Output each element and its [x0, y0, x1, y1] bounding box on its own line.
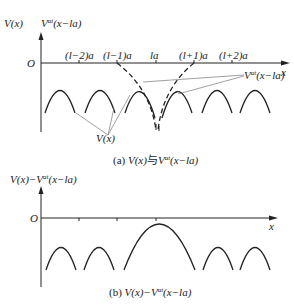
origin-label-b: O: [30, 212, 38, 224]
tick-label-l-2: (l−2)a: [65, 49, 94, 62]
annot-v: V(x): [96, 132, 115, 145]
y-axis-arrow-icon: [39, 32, 44, 40]
diagram-canvas: V(x) Vat(x−la) O x (l−2)a (l−1)a la (l+1…: [0, 0, 294, 307]
caption-a: (a) V(x)与Vat(x−la): [113, 154, 199, 167]
tick-label-l+2: (l+2)a: [219, 49, 248, 62]
y-label-v: V(x): [4, 17, 23, 30]
difference-arches: [46, 224, 270, 270]
tick-label-l: la: [150, 49, 159, 61]
x-label-b: x: [268, 220, 274, 232]
y-label-b: V(x)−Vat(x−la): [10, 173, 77, 186]
tick-label-l-1: (l−1)a: [103, 49, 132, 62]
origin-label-a: O: [27, 57, 35, 69]
caption-b: (b) V(x)−Vat(x−la): [109, 286, 192, 299]
v-at-dashed-well: [117, 63, 194, 130]
y-axis-arrow-icon: [39, 186, 44, 194]
panel-a: V(x) Vat(x−la) O x (l−2)a (l−1)a la (l+1…: [4, 17, 290, 167]
annot-v-at: Vat(x−la): [244, 69, 285, 82]
tick-label-l+1: (l+1)a: [179, 49, 208, 62]
pointer-lines: [76, 75, 244, 135]
x-axis-arrow-icon: [281, 61, 290, 66]
y-label-vat: Vat(x−la): [41, 17, 82, 30]
v-periodic-arches: [45, 91, 270, 119]
panel-b: V(x)−Vat(x−la) O x (b) V(x)−Vat(x−la): [10, 173, 278, 299]
